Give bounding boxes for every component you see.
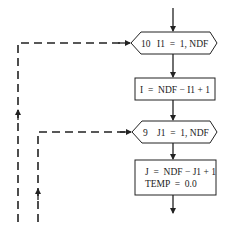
assign-i-label: I = NDF − I1 + 1	[140, 85, 210, 95]
assign-j-line1: J = NDF − J1 + 1	[145, 167, 216, 177]
loop-inner-expr: J1 = 1, NDF	[157, 128, 209, 138]
inner-loop-return	[38, 132, 131, 222]
loop-outer-node: 10 I1 = 1, NDF	[131, 32, 217, 54]
loop-outer-expr: I1 = 1, NDF	[157, 39, 208, 49]
loop-outer-number: 10	[141, 39, 151, 49]
flowchart: 10 I1 = 1, NDF I = NDF − I1 + 1 9 J1 = 1…	[0, 0, 244, 232]
assign-i-node: I = NDF − I1 + 1	[135, 78, 215, 100]
loop-inner-node: 9 J1 = 1, NDF	[132, 121, 217, 143]
outer-loop-return	[18, 43, 130, 222]
loop-inner-number: 9	[143, 128, 148, 138]
assign-j-line2: TEMP = 0.0	[145, 179, 197, 189]
assign-j-node: J = NDF − J1 + 1 TEMP = 0.0	[135, 160, 216, 195]
